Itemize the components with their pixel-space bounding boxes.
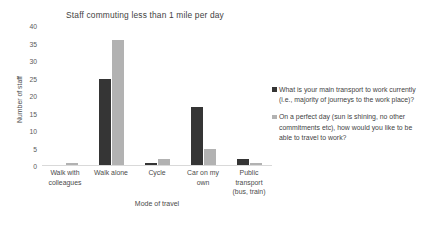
y-axis-title: Number of staff	[16, 55, 23, 145]
x-axis-tick-label: Cycle	[134, 168, 180, 197]
bar-chart: Staff commuting less than 1 mile per day…	[0, 0, 426, 226]
x-axis-tick-label: Walk withcolleagues	[42, 168, 88, 197]
y-axis-tick-label: 0	[33, 163, 37, 170]
x-axis-title: Mode of travel	[42, 200, 272, 207]
x-axis-tick-label-line: transport	[227, 178, 271, 188]
y-axis-tick-label: 5	[33, 145, 37, 152]
chart-legend: What is your main transport to work curr…	[272, 85, 424, 150]
bar-group	[42, 26, 88, 166]
legend-swatch-icon	[272, 87, 277, 92]
x-axis-tick-label: Walk alone	[88, 168, 134, 197]
x-axis-tick-label-line: Car on my	[181, 168, 225, 178]
y-axis-tick-label: 35	[29, 40, 37, 47]
plot-area	[42, 26, 272, 166]
y-axis-tick-labels: 4035302520151050	[20, 26, 40, 166]
chart-title: Staff commuting less than 1 mile per day	[0, 10, 290, 20]
legend-swatch-icon	[272, 115, 277, 120]
y-axis-tick-label: 40	[29, 23, 37, 30]
bar[interactable]	[191, 107, 203, 167]
bar[interactable]	[112, 40, 124, 166]
x-axis-tick-label-line: Cycle	[135, 168, 179, 178]
x-axis-tick-label: Car on myown	[180, 168, 226, 197]
bar-group	[134, 26, 180, 166]
x-axis-tick-label-line: Walk alone	[89, 168, 133, 178]
y-axis-tick-label: 25	[29, 75, 37, 82]
x-axis-tick-label-line: Walk with	[43, 168, 87, 178]
x-axis-tick-label-line: Public	[227, 168, 271, 178]
bar-group	[88, 26, 134, 166]
x-axis-tick-label: Publictransport(bus, train)	[226, 168, 272, 197]
legend-entry[interactable]: What is your main transport to work curr…	[272, 85, 424, 105]
x-axis-tick-label-line: colleagues	[43, 178, 87, 188]
legend-label: What is your main transport to work curr…	[279, 85, 424, 105]
bar-group	[226, 26, 272, 166]
legend-label: On a perfect day (sun is shining, no oth…	[279, 112, 424, 143]
x-axis-tick-label-line: (bus, train)	[227, 187, 271, 197]
bar[interactable]	[99, 79, 111, 167]
x-axis-tick-label-line: own	[181, 178, 225, 188]
legend-entry[interactable]: On a perfect day (sun is shining, no oth…	[272, 112, 424, 143]
x-axis-line	[42, 165, 272, 166]
y-axis-tick-label: 30	[29, 58, 37, 65]
bar[interactable]	[204, 149, 216, 167]
y-axis-tick-label: 20	[29, 93, 37, 100]
bar-group	[180, 26, 226, 166]
bar-groups	[42, 26, 272, 166]
x-axis-tick-labels: Walk withcolleaguesWalk aloneCycleCar on…	[42, 168, 272, 197]
y-axis-tick-label: 10	[29, 128, 37, 135]
y-axis-tick-label: 15	[29, 110, 37, 117]
